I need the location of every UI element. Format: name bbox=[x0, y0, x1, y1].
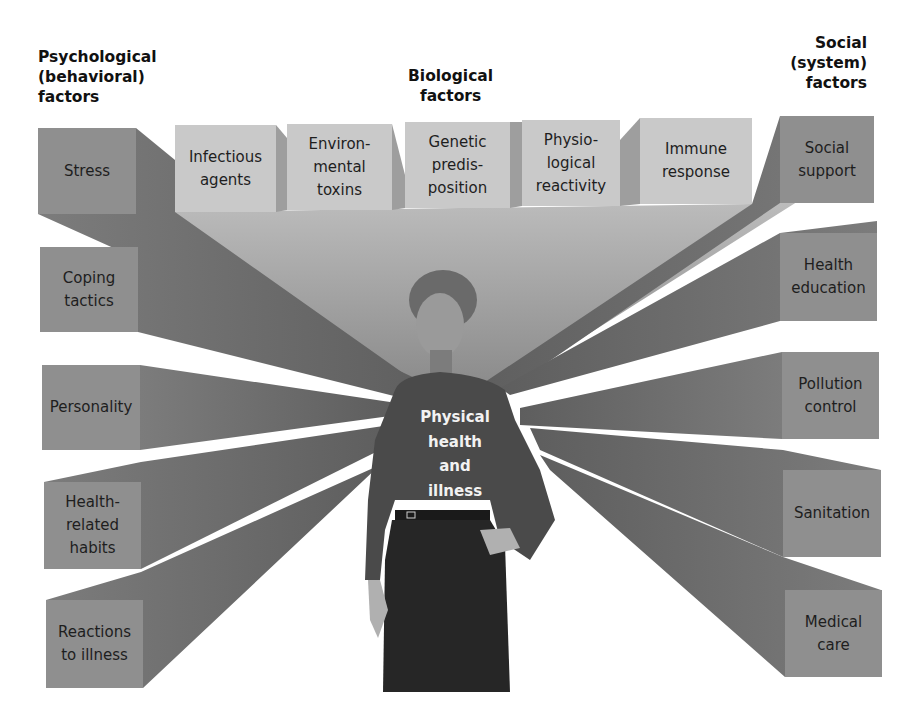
factor-sanitation: Sanitation bbox=[783, 470, 881, 557]
factor-label: Medical bbox=[805, 611, 862, 634]
heading-line: Biological bbox=[408, 66, 493, 86]
factor-social-support: Socialsupport bbox=[780, 116, 874, 203]
heading-line: factors bbox=[790, 73, 867, 93]
factor-health-related-habits: Health-relatedhabits bbox=[44, 482, 141, 569]
psychological-heading: Psychological (behavioral) factors bbox=[38, 47, 157, 107]
heading-line: (system) bbox=[790, 53, 867, 73]
factor-label: position bbox=[428, 177, 487, 200]
center-label-physical-health: Physical health and illness bbox=[395, 405, 515, 503]
factor-personality: Personality bbox=[42, 365, 140, 450]
factor-label: Reactions bbox=[58, 621, 131, 644]
factor-coping-tactics: Copingtactics bbox=[40, 247, 138, 332]
factor-label: agents bbox=[189, 169, 262, 192]
top-box-side-face bbox=[392, 124, 405, 210]
factor-label: Health- bbox=[65, 491, 120, 514]
factor-label: Infectious bbox=[189, 146, 262, 169]
factor-label: Health bbox=[791, 254, 865, 277]
factor-label: Genetic bbox=[428, 131, 487, 154]
factor-label: habits bbox=[65, 537, 120, 560]
factor-label: Physio- bbox=[536, 129, 606, 152]
center-label-line: health bbox=[395, 430, 515, 455]
factor-label: reactivity bbox=[536, 175, 606, 198]
center-label-line: illness bbox=[395, 479, 515, 504]
factor-stress: Stress bbox=[38, 128, 136, 214]
factor-genetic-predisposition: Geneticpredis-position bbox=[405, 122, 510, 208]
factor-label: Sanitation bbox=[794, 502, 870, 525]
top-box-side-face bbox=[620, 118, 640, 206]
factor-environmental-toxins: Environ-mentaltoxins bbox=[287, 124, 392, 210]
top-box-side-face bbox=[510, 122, 522, 208]
factor-label: control bbox=[798, 396, 862, 419]
heading-line: factors bbox=[38, 87, 157, 107]
factor-label: related bbox=[65, 514, 120, 537]
factor-label: Environ- bbox=[309, 133, 371, 156]
factor-infectious-agents: Infectiousagents bbox=[175, 125, 276, 212]
factor-label: Personality bbox=[50, 396, 133, 419]
factor-label: logical bbox=[536, 152, 606, 175]
biological-heading: Biological factors bbox=[408, 66, 493, 106]
factor-label: education bbox=[791, 277, 865, 300]
center-label-line: and bbox=[395, 454, 515, 479]
heading-line: Social bbox=[790, 33, 867, 53]
heading-line: factors bbox=[408, 86, 493, 106]
factor-label: predis- bbox=[428, 154, 487, 177]
factor-label: care bbox=[805, 634, 862, 657]
top-box-side-face bbox=[276, 125, 287, 212]
factor-physiological-reactivity: Physio-logicalreactivity bbox=[522, 120, 620, 206]
factor-label: Social bbox=[798, 137, 856, 160]
factor-label: Stress bbox=[64, 160, 110, 183]
factor-health-education: Healtheducation bbox=[780, 233, 877, 321]
social-heading: Social (system) factors bbox=[790, 33, 867, 93]
factor-label: toxins bbox=[309, 179, 371, 202]
factor-label: mental bbox=[309, 156, 371, 179]
factor-label: Immune bbox=[662, 138, 730, 161]
factor-label: tactics bbox=[63, 290, 115, 313]
factor-medical-care: Medicalcare bbox=[785, 590, 882, 677]
factor-label: Coping bbox=[63, 267, 115, 290]
factor-label: support bbox=[798, 160, 856, 183]
factor-immune-response: Immuneresponse bbox=[640, 118, 752, 204]
factor-label: response bbox=[662, 161, 730, 184]
factor-reactions-to-illness: Reactionsto illness bbox=[46, 600, 143, 688]
heading-line: (behavioral) bbox=[38, 67, 157, 87]
heading-line: Psychological bbox=[38, 47, 157, 67]
factor-label: Pollution bbox=[798, 373, 862, 396]
center-label-line: Physical bbox=[395, 405, 515, 430]
factor-label: to illness bbox=[58, 644, 131, 667]
factor-pollution-control: Pollutioncontrol bbox=[782, 352, 879, 439]
